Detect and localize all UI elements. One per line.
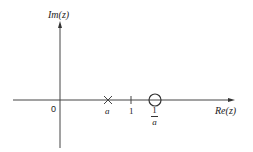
- imaginary-axis-label: Im(z): [48, 10, 69, 20]
- zero-label-denominator: a: [152, 118, 157, 127]
- origin-label: 0: [51, 104, 56, 114]
- zero-label: 1 a: [151, 106, 158, 127]
- pole-label: a: [105, 106, 110, 116]
- real-axis-arrow-icon: [228, 98, 235, 102]
- unit-tick-label: 1: [129, 106, 134, 116]
- real-axis-label: Re(z): [215, 106, 236, 116]
- z-plane-canvas: [0, 0, 253, 152]
- imaginary-axis-arrow-icon: [58, 21, 62, 28]
- zero-label-numerator: 1: [152, 106, 157, 115]
